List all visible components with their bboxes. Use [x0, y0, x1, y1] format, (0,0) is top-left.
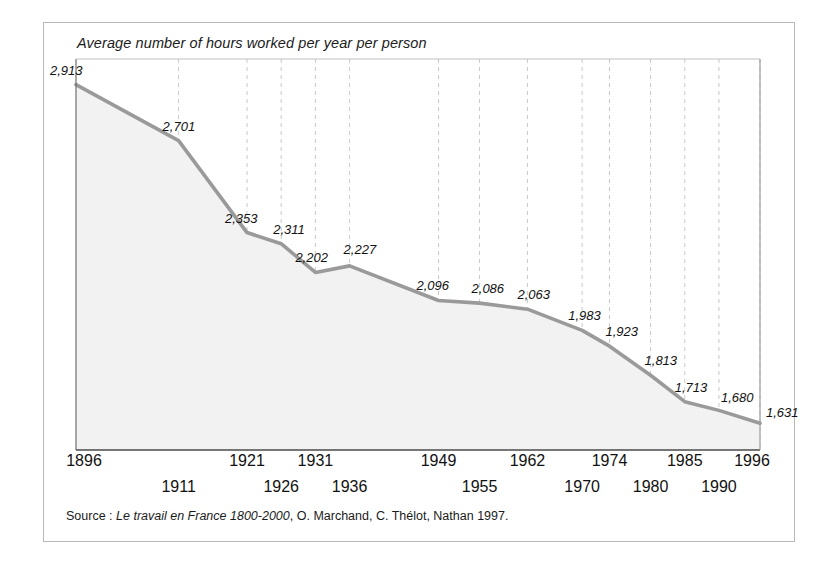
- x-axis-tick-label: 1974: [592, 452, 628, 470]
- x-axis-tick-label: 1996: [734, 452, 770, 470]
- data-point-label: 2,311: [273, 222, 305, 237]
- data-point-label: 2,913: [50, 63, 83, 78]
- data-point-label: 1,983: [568, 308, 601, 323]
- x-axis-tick-label: 1896: [66, 452, 102, 470]
- data-point-label: 1,713: [675, 380, 708, 395]
- x-axis-tick-label: 1990: [701, 478, 737, 496]
- data-point-label: 2,227: [344, 242, 377, 257]
- x-axis-tick-label: 1926: [263, 478, 299, 496]
- x-axis-tick-label: 1970: [564, 478, 600, 496]
- x-axis-tick-label: 1949: [421, 452, 457, 470]
- x-axis-tick-label: 1911: [161, 478, 195, 496]
- data-point-label: 2,063: [517, 287, 550, 302]
- x-axis-tick-label: 1962: [510, 452, 546, 470]
- x-axis-tick-label: 1936: [332, 478, 368, 496]
- x-axis-tick-label: 1955: [462, 478, 498, 496]
- data-point-label: 2,353: [225, 211, 258, 226]
- data-point-label: 2,701: [163, 119, 196, 134]
- data-point-label: 1,923: [606, 324, 639, 339]
- data-point-label: 1,631: [766, 405, 799, 420]
- data-point-label: 2,086: [472, 281, 505, 296]
- data-point-label: 2,202: [295, 250, 328, 265]
- x-axis-tick-label: 1921: [229, 452, 265, 470]
- x-axis-tick-label: 1931: [298, 452, 334, 470]
- x-axis-tick-label: 1980: [633, 478, 669, 496]
- x-axis-tick-label: 1985: [667, 452, 703, 470]
- data-point-label: 1,680: [721, 390, 754, 405]
- data-point-label: 2,096: [417, 278, 450, 293]
- data-point-label: 1,813: [645, 353, 678, 368]
